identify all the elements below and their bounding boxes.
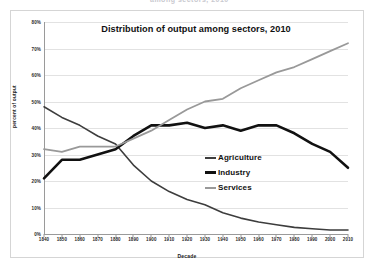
y-tick-label: 10% bbox=[32, 205, 42, 210]
legend-item-services[interactable]: Services bbox=[205, 180, 315, 195]
chart-figure: among sectors, 2010 0%10%20%30%40%50%60%… bbox=[0, 0, 374, 277]
x-tick-label: 1840 bbox=[39, 237, 49, 242]
x-tick-label: 2010 bbox=[343, 237, 353, 242]
series-line-services bbox=[44, 43, 348, 152]
y-tick-label: 80% bbox=[32, 20, 42, 25]
legend-item-label: Industry bbox=[218, 168, 250, 177]
legend-item-agriculture[interactable]: Agriculture bbox=[205, 150, 315, 165]
x-tick-label: 1990 bbox=[307, 237, 317, 242]
clipped-header-strip: among sectors, 2010 bbox=[0, 0, 374, 9]
y-tick-label: 20% bbox=[32, 179, 42, 184]
gridline bbox=[44, 234, 348, 235]
x-axis-title: Decade bbox=[0, 253, 374, 259]
x-tick-label: 1940 bbox=[218, 237, 228, 242]
legend-swatch-icon bbox=[205, 187, 216, 189]
legend-swatch-icon bbox=[205, 157, 216, 159]
clipped-header-text: among sectors, 2010 bbox=[150, 0, 229, 3]
y-tick-label: 0% bbox=[34, 232, 41, 237]
x-tick-label: 1970 bbox=[271, 237, 281, 242]
y-axis-ticks: 0%10%20%30%40%50%60%70%80% bbox=[14, 22, 41, 234]
x-tick-label: 1890 bbox=[128, 237, 138, 242]
x-tick-label: 1920 bbox=[182, 237, 192, 242]
x-tick-label: 1880 bbox=[110, 237, 120, 242]
x-tick-label: 1960 bbox=[253, 237, 263, 242]
x-tick-label: 2000 bbox=[325, 237, 335, 242]
y-tick-label: 40% bbox=[32, 126, 42, 131]
x-tick-label: 1910 bbox=[164, 237, 174, 242]
series-lines bbox=[44, 22, 348, 234]
x-tick-label: 1860 bbox=[75, 237, 85, 242]
y-tick-label: 50% bbox=[32, 99, 42, 104]
x-tick-label: 1950 bbox=[235, 237, 245, 242]
plot-area bbox=[44, 22, 348, 234]
x-axis-ticks: 1840185018601870188018901900191019201930… bbox=[44, 237, 348, 249]
x-tick-label: 1900 bbox=[146, 237, 156, 242]
chart-legend: AgricultureIndustryServices bbox=[205, 150, 315, 195]
y-axis-title: percent of output bbox=[12, 77, 17, 137]
x-tick-label: 1980 bbox=[289, 237, 299, 242]
legend-swatch-icon bbox=[205, 171, 216, 174]
legend-item-label: Services bbox=[218, 183, 252, 192]
legend-item-label: Agriculture bbox=[218, 153, 262, 162]
y-tick-label: 30% bbox=[32, 152, 42, 157]
y-tick-label: 70% bbox=[32, 46, 42, 51]
x-tick-label: 1850 bbox=[57, 237, 67, 242]
legend-item-industry[interactable]: Industry bbox=[205, 165, 315, 180]
x-tick-label: 1870 bbox=[92, 237, 102, 242]
x-tick-label: 1930 bbox=[200, 237, 210, 242]
y-tick-label: 60% bbox=[32, 73, 42, 78]
